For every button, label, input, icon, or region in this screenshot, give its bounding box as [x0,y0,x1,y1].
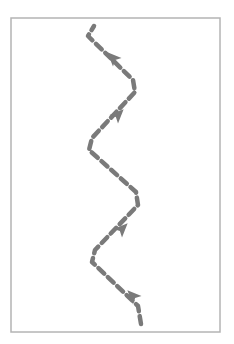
trajectory-diagram [0,0,234,344]
dashed-trajectory-path [88,26,141,324]
